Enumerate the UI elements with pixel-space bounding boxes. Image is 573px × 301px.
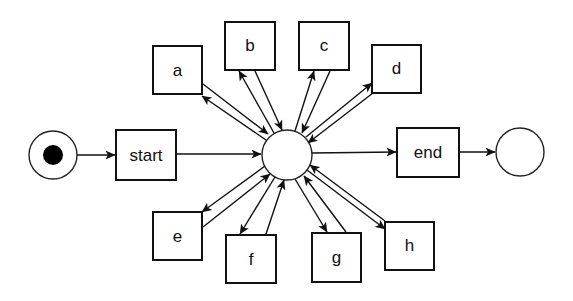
arc-center-to-f <box>240 177 275 234</box>
end-place[interactable] <box>496 128 544 176</box>
arc-center-to-h <box>307 170 385 229</box>
token-icon <box>43 145 63 165</box>
transition-d-label: d <box>392 59 401 78</box>
arc-center-to-e <box>202 166 265 212</box>
transition-g[interactable]: g <box>312 233 361 282</box>
arc-center-to-d <box>306 83 372 137</box>
transition-d[interactable]: d <box>372 45 421 93</box>
transition-c-label: c <box>320 36 329 55</box>
transition-h[interactable]: h <box>385 222 434 270</box>
transition-a[interactable]: a <box>153 46 202 94</box>
arc-center-to-g <box>295 179 327 232</box>
arc-c-to-center <box>302 71 330 133</box>
transition-h-label: h <box>405 236 414 255</box>
transition-start[interactable]: start <box>116 130 176 180</box>
transition-f[interactable]: f <box>226 235 276 283</box>
center-place[interactable] <box>262 130 312 180</box>
transition-end-label: end <box>414 143 442 162</box>
workflow-diagram: start end a b c d e f g h <box>0 0 573 301</box>
transition-end[interactable]: end <box>397 128 459 177</box>
transition-c[interactable]: c <box>299 22 349 70</box>
transition-g-label: g <box>332 248 341 267</box>
transition-e[interactable]: e <box>153 212 202 260</box>
arc-a-to-center <box>203 84 268 134</box>
arc-d-to-center <box>308 93 373 143</box>
arc-center-to-c <box>295 71 314 131</box>
transition-start-label: start <box>129 146 162 165</box>
transition-f-label: f <box>249 250 254 269</box>
transition-b[interactable]: b <box>225 22 275 70</box>
arc-h-to-center <box>310 165 385 221</box>
transition-a-label: a <box>173 61 183 80</box>
start-place[interactable] <box>29 131 77 179</box>
transition-e-label: e <box>173 227 182 246</box>
arc-center-to-end <box>312 152 396 153</box>
arc-b-to-center <box>255 71 282 130</box>
transition-b-label: b <box>245 36 254 55</box>
